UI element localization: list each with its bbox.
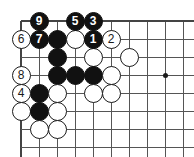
stone-move-number: 5 [72,15,79,27]
white-stone [84,84,103,103]
black-stone-move-5: 5 [66,12,85,31]
stone-move-number: 4 [18,87,25,99]
white-stone [66,30,85,49]
stone-move-number: 3 [90,15,97,27]
white-stone-move-4: 4 [12,84,31,103]
white-stone [102,66,121,85]
star-point [163,73,168,78]
white-stone [48,120,67,139]
black-stone [48,30,67,49]
black-stone [30,102,49,121]
stone-move-number: 7 [36,33,43,45]
white-stone [84,48,103,67]
white-stone [120,48,139,67]
white-stone-move-6: 6 [12,30,31,49]
stone-move-number: 2 [108,33,115,45]
black-stone-move-1: 1 [84,30,103,49]
white-stone-move-2: 2 [102,30,121,49]
white-stone [48,102,67,121]
black-stone-move-3: 3 [84,12,103,31]
white-stone-move-8: 8 [12,66,31,85]
white-stone [102,84,121,103]
black-stone-move-9: 9 [30,12,49,31]
stone-move-number: 1 [90,33,97,45]
black-stone [66,66,85,85]
black-stone-move-7: 7 [30,30,49,49]
go-diagram: 953671284 [0,0,194,157]
stone-move-number: 6 [18,33,25,45]
black-stone [48,48,67,67]
stone-layer: 953671284 [0,0,194,157]
stone-move-number: 9 [36,15,43,27]
white-stone [48,84,67,103]
stone-move-number: 8 [18,69,25,81]
white-stone [30,120,49,139]
black-stone [48,66,67,85]
white-stone [12,102,31,121]
black-stone [84,66,103,85]
black-stone [30,84,49,103]
